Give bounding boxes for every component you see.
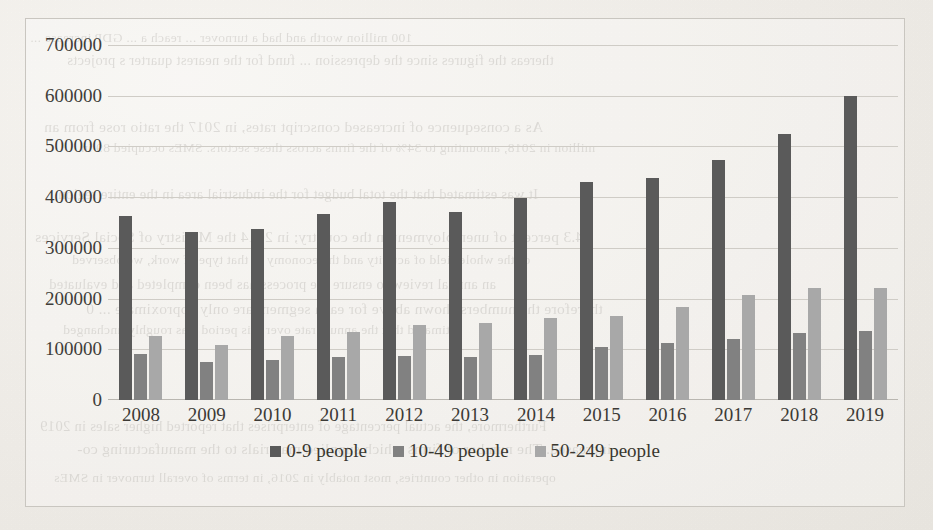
bar-group xyxy=(108,45,174,400)
bar xyxy=(742,295,755,400)
bar xyxy=(514,198,527,400)
bar xyxy=(595,347,608,400)
bar xyxy=(281,336,294,400)
chart-legend: 0-9 people10-49 people50-249 people xyxy=(25,440,905,462)
bar-groups xyxy=(108,45,898,400)
bar xyxy=(134,354,147,400)
bar xyxy=(449,212,462,400)
bar xyxy=(859,331,872,400)
legend-swatch-icon xyxy=(270,446,281,457)
bar-group xyxy=(700,45,766,400)
bar xyxy=(529,355,542,400)
bar-group xyxy=(635,45,701,400)
x-axis-tick-label: 2018 xyxy=(766,404,832,426)
bar-group xyxy=(371,45,437,400)
legend-label: 10-49 people xyxy=(409,440,509,462)
bar-group xyxy=(569,45,635,400)
bar xyxy=(610,316,623,400)
y-axis-tick-label: 300000 xyxy=(2,237,102,259)
x-axis-tick-label: 2010 xyxy=(240,404,306,426)
bar xyxy=(317,214,330,400)
y-axis-tick-label: 0 xyxy=(2,389,102,411)
bar xyxy=(808,288,821,400)
x-axis-tick-label: 2015 xyxy=(569,404,635,426)
bar xyxy=(676,307,689,400)
bar-group xyxy=(766,45,832,400)
bar-group xyxy=(832,45,898,400)
bar xyxy=(479,323,492,400)
x-axis-tick-label: 2016 xyxy=(635,404,701,426)
x-axis-tick-label: 2019 xyxy=(832,404,898,426)
x-axis-tick-label: 2012 xyxy=(371,404,437,426)
x-axis-labels: 2008200920102011201220132014201520162017… xyxy=(108,404,898,426)
bar-group xyxy=(174,45,240,400)
bar xyxy=(712,160,725,400)
legend-item: 0-9 people xyxy=(270,440,367,462)
legend-item: 10-49 people xyxy=(393,440,509,462)
bar xyxy=(544,318,557,400)
bar-group xyxy=(305,45,371,400)
y-axis-tick-label: 400000 xyxy=(2,186,102,208)
y-axis-tick-label: 200000 xyxy=(2,288,102,310)
bar xyxy=(793,333,806,400)
bar xyxy=(727,339,740,400)
legend-label: 0-9 people xyxy=(286,440,367,462)
bar xyxy=(464,357,477,400)
bar-group xyxy=(503,45,569,400)
x-axis-tick-label: 2008 xyxy=(108,404,174,426)
bar xyxy=(661,343,674,400)
bar xyxy=(149,336,162,400)
y-axis-tick-label: 600000 xyxy=(2,85,102,107)
bar xyxy=(215,345,228,400)
bar xyxy=(844,96,857,400)
bar xyxy=(185,232,198,400)
bar xyxy=(874,288,887,400)
x-axis-tick-label: 2009 xyxy=(174,404,240,426)
bar xyxy=(119,216,132,400)
y-axis-tick-label: 100000 xyxy=(2,338,102,360)
y-axis-tick-label: 500000 xyxy=(2,135,102,157)
scanned-page: 100 million worth and had a turnover ...… xyxy=(0,0,933,530)
bar xyxy=(200,362,213,400)
bar xyxy=(413,325,426,400)
bar xyxy=(332,357,345,400)
x-axis-tick-label: 2014 xyxy=(503,404,569,426)
legend-swatch-icon xyxy=(535,446,546,457)
legend-swatch-icon xyxy=(393,446,404,457)
x-axis-tick-label: 2011 xyxy=(305,404,371,426)
bar xyxy=(266,360,279,400)
bar xyxy=(580,182,593,400)
bar-group xyxy=(240,45,306,400)
bar xyxy=(646,178,659,400)
x-axis-tick-label: 2013 xyxy=(437,404,503,426)
bar xyxy=(347,332,360,400)
bar xyxy=(398,356,411,400)
y-axis-tick-label: 700000 xyxy=(2,34,102,56)
x-axis-tick-label: 2017 xyxy=(700,404,766,426)
legend-label: 50-249 people xyxy=(551,440,660,462)
legend-item: 50-249 people xyxy=(535,440,660,462)
bar-group xyxy=(437,45,503,400)
y-axis-labels: 7000006000005000004000003000002000001000… xyxy=(0,45,102,400)
bar xyxy=(778,134,791,400)
bar xyxy=(383,202,396,400)
bar xyxy=(251,229,264,400)
